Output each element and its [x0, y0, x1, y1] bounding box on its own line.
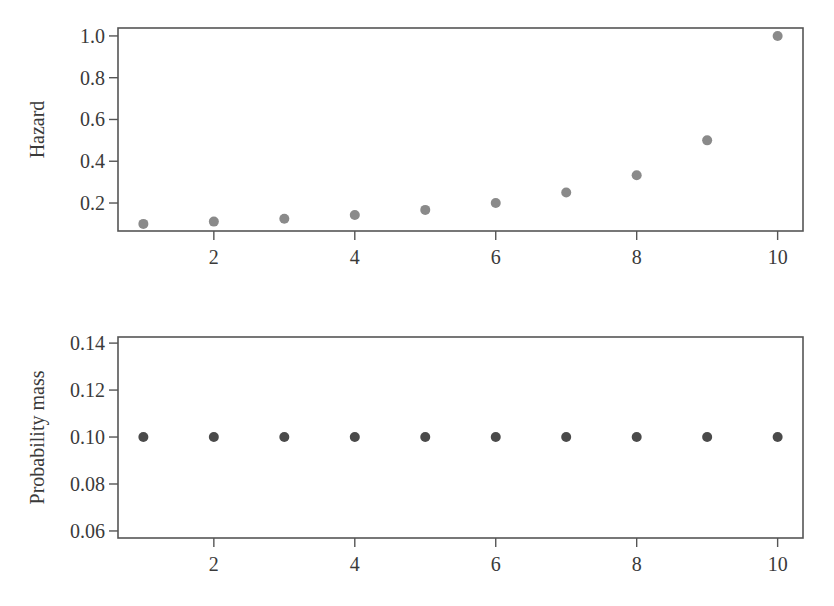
y-tick-label: 0.06: [70, 520, 105, 542]
y-tick-label: 0.4: [80, 150, 105, 172]
x-tick-label: 2: [209, 553, 219, 575]
data-point: [773, 31, 783, 41]
y-tick-label: 0.08: [70, 473, 105, 495]
x-tick-label: 8: [632, 553, 642, 575]
data-point: [138, 219, 148, 229]
data-point: [209, 432, 219, 442]
y-axis-label: Hazard: [26, 101, 48, 159]
y-tick-label: 1.0: [80, 25, 105, 47]
hazard-panel: 0.20.40.60.81.0246810Hazard: [26, 25, 803, 268]
y-tick-label: 0.14: [70, 332, 105, 354]
data-point: [561, 188, 571, 198]
data-point: [491, 198, 501, 208]
data-point: [138, 432, 148, 442]
data-point: [279, 214, 289, 224]
data-point: [279, 432, 289, 442]
y-axis-label: Probability mass: [26, 370, 49, 504]
data-point: [420, 432, 430, 442]
probability-mass-panel: 0.060.080.100.120.14246810Probability ma…: [26, 332, 803, 575]
x-tick-label: 6: [491, 246, 501, 268]
y-tick-label: 0.6: [80, 108, 105, 130]
x-tick-label: 10: [768, 553, 788, 575]
y-tick-label: 0.10: [70, 426, 105, 448]
data-point: [209, 217, 219, 227]
x-tick-label: 10: [768, 246, 788, 268]
chart-canvas: 0.20.40.60.81.0246810Hazard 0.060.080.10…: [0, 0, 834, 606]
data-point: [773, 432, 783, 442]
y-tick-label: 0.8: [80, 67, 105, 89]
y-tick-label: 0.12: [70, 379, 105, 401]
data-point: [702, 432, 712, 442]
plot-frame: [118, 28, 803, 231]
data-point: [420, 205, 430, 215]
x-tick-label: 6: [491, 553, 501, 575]
data-point: [702, 135, 712, 145]
plot-frame: [118, 337, 803, 538]
x-tick-label: 2: [209, 246, 219, 268]
data-point: [632, 432, 642, 442]
data-point: [350, 432, 360, 442]
x-tick-label: 4: [350, 246, 360, 268]
x-tick-label: 4: [350, 553, 360, 575]
data-point: [491, 432, 501, 442]
y-tick-label: 0.2: [80, 192, 105, 214]
data-point: [561, 432, 571, 442]
x-tick-label: 8: [632, 246, 642, 268]
data-point: [632, 170, 642, 180]
data-point: [350, 210, 360, 220]
